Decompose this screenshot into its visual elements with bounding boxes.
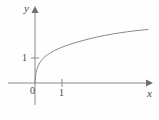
x-tick-label-1: 1: [59, 88, 64, 98]
y-axis-label: y: [24, 3, 29, 14]
origin-label: 0: [30, 86, 35, 96]
x-axis-arrowhead: [146, 80, 153, 87]
function-plot-figure: y x 0 1 1: [0, 0, 159, 120]
curve-path: [35, 30, 148, 84]
x-axis-label: x: [147, 88, 152, 99]
y-axis-arrowhead: [32, 6, 39, 13]
y-tick-label-1: 1: [22, 53, 27, 63]
